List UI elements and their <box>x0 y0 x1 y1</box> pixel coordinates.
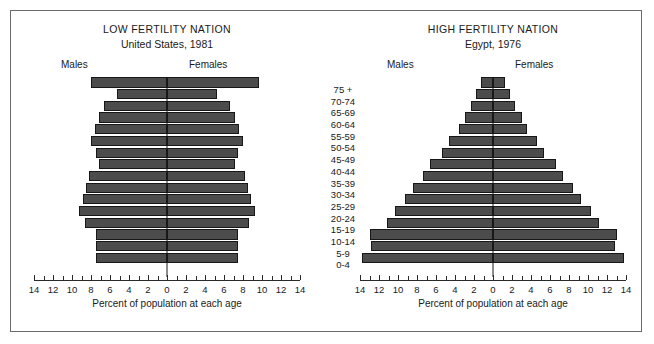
panel-right-center-axis <box>493 77 494 277</box>
bar-female <box>493 159 556 169</box>
bar-male <box>481 77 493 87</box>
bar-female <box>167 218 249 228</box>
axis-tick-major <box>379 275 380 280</box>
panel-high-fertility: HIGH FERTILITY NATION Egypt, 1976 Males … <box>343 11 643 331</box>
axis-tick-major <box>148 275 149 280</box>
bar-female <box>167 159 235 169</box>
axis-tick-major <box>300 275 301 280</box>
axis-tick-minor <box>253 276 254 280</box>
axis-tick-major <box>110 275 111 280</box>
bar-female <box>493 229 617 239</box>
axis-tick-minor <box>63 276 64 280</box>
axis-tick-minor <box>139 276 140 280</box>
axis-tick-label: 4 <box>126 284 131 295</box>
axis-tick-minor <box>370 276 371 280</box>
bar-male <box>95 124 167 134</box>
bar-female <box>167 253 238 263</box>
bar-female <box>493 171 563 181</box>
axis-tick-minor <box>522 276 523 280</box>
axis-tick-minor <box>617 276 618 280</box>
axis-tick-label: 2 <box>471 284 476 295</box>
axis-tick-label: 14 <box>355 284 366 295</box>
axis-tick-major <box>398 275 399 280</box>
panel-left-center-axis <box>167 77 168 277</box>
bar-female <box>493 89 510 99</box>
axis-tick-label: 8 <box>414 284 419 295</box>
bar-male <box>99 159 167 169</box>
panel-left-axis-title: Percent of population at each age <box>34 298 300 309</box>
panel-right-plot <box>360 77 626 277</box>
figure-frame: LOW FERTILITY NATION United States, 1981… <box>10 10 642 332</box>
panel-low-fertility: LOW FERTILITY NATION United States, 1981… <box>17 11 317 331</box>
bar-male <box>91 77 167 87</box>
axis-tick-major <box>34 275 35 280</box>
bar-male <box>387 218 493 228</box>
axis-tick-major <box>243 275 244 280</box>
bar-male <box>86 183 167 193</box>
panel-left-axis-rule <box>34 280 300 281</box>
axis-tick-major <box>569 275 570 280</box>
bar-male <box>96 148 167 158</box>
panel-right-females-label: Females <box>515 59 553 70</box>
axis-tick-major <box>167 275 168 280</box>
axis-tick-label: 10 <box>393 284 404 295</box>
axis-tick-label: 6 <box>547 284 552 295</box>
axis-tick-minor <box>177 276 178 280</box>
bar-female <box>493 183 573 193</box>
axis-tick-minor <box>215 276 216 280</box>
bar-female <box>493 112 522 122</box>
bar-male <box>99 112 167 122</box>
axis-tick-label: 6 <box>433 284 438 295</box>
bar-male <box>459 124 493 134</box>
bar-male <box>96 241 167 251</box>
panel-left-sex-legend: Males Females <box>17 59 317 75</box>
axis-tick-major <box>262 275 263 280</box>
axis-tick-major <box>626 275 627 280</box>
bar-female <box>493 218 599 228</box>
bar-male <box>85 218 167 228</box>
axis-tick-major <box>588 275 589 280</box>
bar-female <box>167 89 217 99</box>
axis-tick-major <box>417 275 418 280</box>
bar-male <box>476 89 493 99</box>
bar-female <box>493 124 527 134</box>
bar-male <box>442 148 493 158</box>
axis-tick-minor <box>503 276 504 280</box>
axis-tick-label: 8 <box>240 284 245 295</box>
axis-tick-label: 4 <box>452 284 457 295</box>
panel-right-x-axis: Percent of population at each age 141210… <box>360 280 626 314</box>
bar-female <box>493 194 581 204</box>
axis-tick-label: 10 <box>257 284 268 295</box>
axis-tick-major <box>360 275 361 280</box>
axis-tick-label: 6 <box>107 284 112 295</box>
bar-female <box>167 171 245 181</box>
bar-male <box>79 206 167 216</box>
bar-female <box>167 124 239 134</box>
bar-male <box>449 136 493 146</box>
axis-tick-label: 10 <box>583 284 594 295</box>
axis-tick-label: 12 <box>48 284 59 295</box>
bar-female <box>167 101 230 111</box>
bar-female <box>167 148 238 158</box>
bar-male <box>465 112 494 122</box>
axis-tick-minor <box>484 276 485 280</box>
axis-tick-major <box>474 275 475 280</box>
axis-tick-label: 0 <box>490 284 495 295</box>
axis-tick-minor <box>427 276 428 280</box>
panel-left-x-axis: Percent of population at each age 141210… <box>34 280 300 314</box>
axis-tick-minor <box>44 276 45 280</box>
bar-female <box>493 241 615 251</box>
axis-tick-label: 14 <box>295 284 306 295</box>
panel-right-males-label: Males <box>387 59 414 70</box>
bar-female <box>167 241 238 251</box>
bar-male <box>91 136 167 146</box>
panel-right-title: HIGH FERTILITY NATION <box>343 23 643 35</box>
bar-female <box>493 136 537 146</box>
axis-tick-major <box>550 275 551 280</box>
axis-tick-minor <box>446 276 447 280</box>
axis-tick-label: 4 <box>528 284 533 295</box>
axis-tick-minor <box>101 276 102 280</box>
axis-tick-minor <box>158 276 159 280</box>
bar-male <box>423 171 493 181</box>
axis-tick-label: 2 <box>509 284 514 295</box>
